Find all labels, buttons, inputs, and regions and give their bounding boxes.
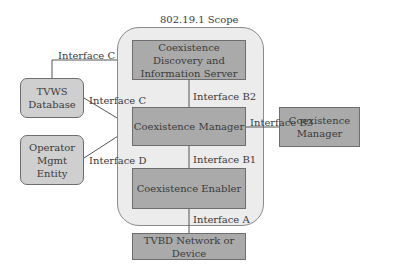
interface-b2-label: Interface B2 (193, 91, 256, 102)
tvws-label: TVWS Database (27, 85, 77, 111)
coexistence-manager-box: Coexistence Manager (132, 107, 246, 146)
tvbd-label: TVBD Network or Device (139, 234, 239, 260)
interface-c-mid-label: Interface C (89, 95, 146, 106)
cm-label: Coexistence Manager (134, 120, 244, 133)
tvbd-box: TVBD Network or Device (132, 233, 246, 260)
operator-label: Operator Mgmt Entity (28, 141, 76, 180)
operator-mgmt-box: Operator Mgmt Entity (20, 135, 84, 185)
interface-d-label: Interface D (89, 155, 147, 166)
cdis-box: Coexistence Discovery and Information Se… (132, 40, 246, 80)
ce-label: Coexistence Enabler (137, 182, 242, 195)
interface-a-label: Interface A (193, 214, 250, 225)
interface-b3-label: Interface B3 (250, 117, 313, 128)
interface-b1-label: Interface B1 (193, 154, 256, 165)
tvws-database-box: TVWS Database (20, 78, 84, 118)
interface-c-top-label: Interface C (58, 50, 115, 61)
cdis-label: Coexistence Discovery and Information Se… (137, 41, 241, 80)
coexistence-enabler-box: Coexistence Enabler (132, 168, 246, 209)
